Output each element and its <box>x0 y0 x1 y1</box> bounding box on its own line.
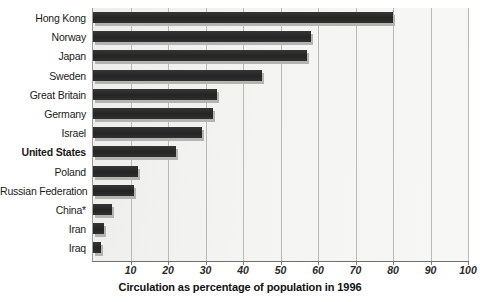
tick-label-10: 10 <box>125 264 137 276</box>
bar-row: Israel <box>0 127 480 146</box>
category-label: United States <box>0 146 86 159</box>
tick-label-20: 20 <box>162 264 174 276</box>
tick-label-100: 100 <box>459 264 477 276</box>
bar <box>93 204 112 215</box>
category-label: Great Britain <box>0 89 86 102</box>
bar <box>93 70 262 81</box>
bar <box>93 31 311 42</box>
bar <box>93 127 202 138</box>
tick-label-60: 60 <box>312 264 324 276</box>
category-label: Norway <box>0 31 86 44</box>
category-label: Iran <box>0 223 86 236</box>
bar <box>93 242 101 253</box>
tick-label-30: 30 <box>200 264 212 276</box>
bar-row: United States <box>0 146 480 165</box>
bar <box>93 108 213 119</box>
category-label: Germany <box>0 108 86 121</box>
bar-row: Hong Kong <box>0 12 480 31</box>
category-label: Iraq <box>0 242 86 255</box>
bar <box>93 12 393 23</box>
bar-row: Russian Federation <box>0 185 480 204</box>
bar <box>93 166 138 177</box>
bar <box>93 223 104 234</box>
bar-row: Iran <box>0 223 480 242</box>
bar-row: Iraq <box>0 242 480 261</box>
bar-row: China* <box>0 204 480 223</box>
bar <box>93 50 307 61</box>
tick-label-70: 70 <box>350 264 362 276</box>
tick-label-40: 40 <box>237 264 249 276</box>
category-label: Israel <box>0 127 86 140</box>
category-label: China* <box>0 204 86 217</box>
tick-label-80: 80 <box>387 264 399 276</box>
bar <box>93 146 176 157</box>
category-label: Russian Federation <box>0 185 86 198</box>
category-label: Japan <box>0 50 86 63</box>
bar <box>93 185 134 196</box>
bar-row: Germany <box>0 108 480 127</box>
tick-label-90: 90 <box>425 264 437 276</box>
bar-row: Japan <box>0 50 480 69</box>
bar-row: Poland <box>0 166 480 185</box>
category-label: Hong Kong <box>0 12 86 25</box>
bar-row: Norway <box>0 31 480 50</box>
bar <box>93 89 217 100</box>
bar-chart: Hong KongNorwayJapanSwedenGreat BritainG… <box>0 0 480 302</box>
x-axis-title: Circulation as percentage of population … <box>0 281 480 293</box>
category-label: Sweden <box>0 70 86 83</box>
bar-row: Sweden <box>0 70 480 89</box>
bar-row: Great Britain <box>0 89 480 108</box>
tick-label-50: 50 <box>275 264 287 276</box>
category-label: Poland <box>0 166 86 179</box>
